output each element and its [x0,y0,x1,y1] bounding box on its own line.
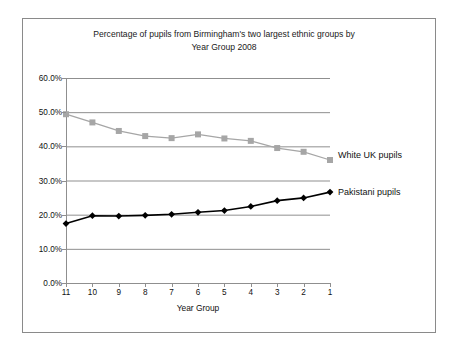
series-label-white-uk: White UK pupils [338,150,402,160]
y-tick-mark [62,215,66,216]
data-point-marker [142,212,149,219]
x-tick-mark [92,283,93,287]
y-tick-label: 60.0% [20,74,62,83]
x-tick-mark [277,283,278,287]
data-point-marker [195,209,202,216]
y-tick-label: 0.0% [20,279,62,288]
chart-title: Percentage of pupils from Birmingham's t… [46,28,402,54]
data-point-marker [221,207,228,214]
x-tick-mark [145,283,146,287]
y-tick-label: 30.0% [20,176,62,185]
x-tick-label: 10 [88,288,97,297]
data-point-marker [89,119,95,125]
x-tick-label: 11 [62,288,71,297]
y-tick-mark [62,283,66,284]
series-line-pakistani [66,192,330,223]
data-point-marker [115,213,122,220]
data-series-layer [66,78,330,284]
data-point-marker [274,145,280,151]
x-tick-label: 7 [169,288,174,297]
x-tick-label: 2 [301,288,306,297]
x-tick-mark [198,283,199,287]
x-tick-label: 4 [249,288,254,297]
y-tick-label: 40.0% [20,142,62,151]
data-point-marker [169,135,175,141]
series-label-pakistani: Pakistani pupils [338,187,401,197]
y-tick-mark [62,146,66,147]
y-axis-labels: 0.0%10.0%20.0%30.0%40.0%50.0%60.0% [18,0,62,353]
x-tick-label: 1 [328,288,333,297]
data-point-marker [221,135,227,141]
y-tick-mark [62,181,66,182]
plot-area [66,78,330,283]
data-point-marker [274,197,281,204]
chart-figure: Percentage of pupils from Birmingham's t… [0,0,459,353]
y-tick-mark [62,78,66,79]
x-tick-label: 6 [196,288,201,297]
data-point-marker [247,203,254,210]
x-tick-mark [304,283,305,287]
data-point-marker [116,128,122,134]
y-tick-label: 10.0% [20,244,62,253]
y-tick-mark [62,112,66,113]
x-tick-label: 5 [222,288,227,297]
data-point-marker [195,131,201,137]
x-tick-mark [119,283,120,287]
x-tick-label: 3 [275,288,280,297]
x-axis-title: Year Group [66,303,330,313]
x-tick-label: 9 [117,288,122,297]
data-point-marker [248,138,254,144]
data-point-marker [168,211,175,218]
data-point-marker [327,157,333,163]
y-tick-label: 20.0% [20,210,62,219]
data-point-marker [301,149,307,155]
data-point-marker [89,212,96,219]
x-tick-mark [66,283,67,287]
x-tick-label: 8 [143,288,148,297]
x-tick-mark [251,283,252,287]
x-tick-mark [330,283,331,287]
data-point-marker [300,195,307,202]
y-tick-mark [62,249,66,250]
x-tick-mark [224,283,225,287]
data-point-marker [142,133,148,139]
y-tick-label: 50.0% [20,108,62,117]
x-tick-mark [172,283,173,287]
